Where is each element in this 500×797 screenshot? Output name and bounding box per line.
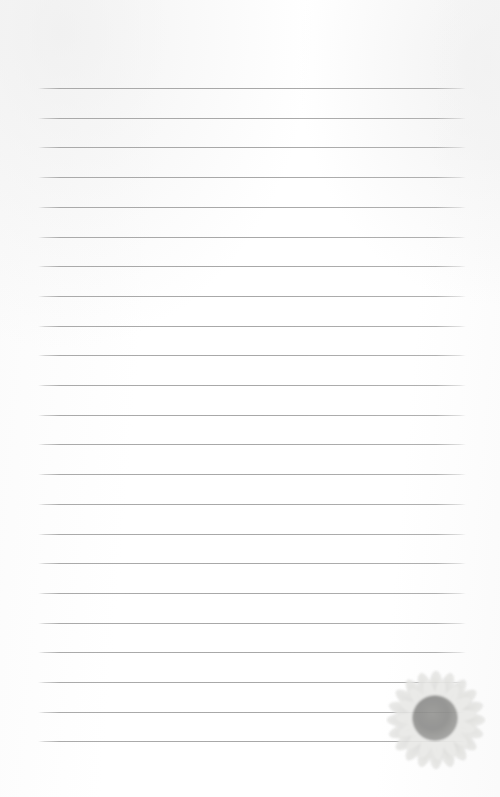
rule-line — [38, 88, 466, 89]
rule-line — [38, 682, 466, 683]
rule-line — [38, 177, 466, 178]
rule-line — [38, 534, 466, 535]
notepaper-page — [0, 0, 500, 797]
rule-line — [38, 652, 466, 653]
rule-line — [38, 118, 466, 119]
ruled-lines-layer — [0, 0, 500, 797]
rule-line — [38, 444, 466, 445]
rule-line — [38, 474, 466, 475]
rule-line — [38, 326, 466, 327]
rule-line — [38, 712, 466, 713]
rule-line — [38, 385, 466, 386]
rule-line — [38, 147, 466, 148]
rule-line — [38, 266, 466, 267]
rule-line — [38, 741, 466, 742]
rule-line — [38, 355, 466, 356]
rule-line — [38, 563, 466, 564]
rule-line — [38, 296, 466, 297]
rule-line — [38, 237, 466, 238]
rule-line — [38, 623, 466, 624]
rule-line — [38, 415, 466, 416]
rule-line — [38, 593, 466, 594]
rule-line — [38, 504, 466, 505]
rule-line — [38, 207, 466, 208]
